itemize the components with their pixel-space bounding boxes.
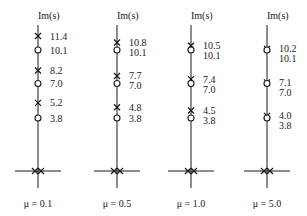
zero-marker-icon (35, 80, 41, 86)
mu-label: μ = 5.0 (253, 198, 282, 209)
zero-marker-icon (114, 47, 120, 53)
zero-value-label: 10.1 (50, 45, 68, 56)
zero-value-label: 3.8 (203, 115, 216, 126)
zero-marker-icon (188, 80, 194, 86)
zero-marker-icon (264, 115, 270, 121)
zero-marker-icon (35, 47, 41, 53)
im-axis-label: Im(s) (191, 10, 213, 22)
zero-marker-icon (188, 115, 194, 121)
im-axis-label: Im(s) (117, 10, 139, 22)
zero-value-label: 3.8 (129, 113, 142, 124)
panel-mu-1: Im(s)10.57.44.510.17.03.8μ = 1.0 (168, 10, 221, 209)
pole-value-label: 11.4 (50, 31, 67, 42)
zero-value-label: 7.0 (50, 78, 63, 89)
mu-label: μ = 0.1 (24, 198, 53, 209)
zero-value-label: 10.1 (203, 50, 221, 61)
zero-marker-icon (114, 115, 120, 121)
pole-value-label: 4.8 (129, 102, 142, 113)
mu-label: μ = 0.5 (103, 198, 132, 209)
im-axis-label: Im(s) (38, 10, 60, 22)
panel-mu-5: Im(s)10.27.14.010.17.03.8μ = 5.0 (244, 10, 297, 209)
zero-marker-icon (114, 80, 120, 86)
im-axis-label: Im(s) (267, 10, 289, 22)
mu-label: μ = 1.0 (177, 198, 206, 209)
zero-value-label: 3.8 (50, 113, 63, 124)
zero-value-label: 7.0 (279, 87, 292, 98)
pole-zero-figure: Im(s)11.48.25.210.17.03.8μ = 0.1Im(s)10.… (0, 0, 307, 216)
panel-mu-0.5: Im(s)10.87.74.810.17.03.8μ = 0.5 (94, 10, 147, 209)
zero-value-label: 7.0 (129, 80, 142, 91)
zero-marker-icon (264, 80, 270, 86)
zero-marker-icon (264, 47, 270, 53)
zero-marker-icon (35, 115, 41, 121)
zero-value-label: 7.0 (203, 84, 216, 95)
zero-value-label: 3.8 (279, 120, 292, 131)
zero-value-label: 10.1 (129, 47, 147, 58)
pole-value-label: 5.2 (50, 97, 63, 108)
panel-mu-0.1: Im(s)11.48.25.210.17.03.8μ = 0.1 (15, 10, 68, 209)
zero-value-label: 10.1 (279, 53, 297, 64)
zero-marker-icon (188, 47, 194, 53)
pole-value-label: 8.2 (50, 65, 63, 76)
